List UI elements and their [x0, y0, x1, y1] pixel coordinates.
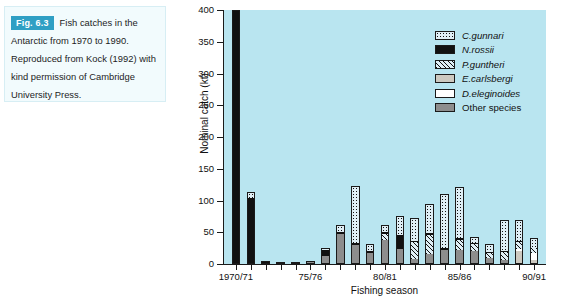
x-tick — [281, 265, 282, 270]
legend-swatch-icon — [435, 89, 455, 98]
bar-segment-N.rossii — [485, 252, 494, 253]
x-tick — [340, 265, 341, 270]
bar-segment-Other species — [500, 260, 509, 264]
bar-segment-N.rossii — [440, 248, 449, 250]
x-axis-title: Fishing season — [223, 285, 546, 296]
y-tick-label: 100 — [186, 196, 214, 205]
bar-segment-P.guntheri — [500, 252, 509, 260]
bar-segment-N.rossii — [261, 261, 270, 263]
bar-segment-E.carlsbergi — [515, 251, 524, 264]
bar-1982/83 — [410, 10, 419, 264]
legend-label: C.gunnari — [462, 30, 504, 41]
bar-segment-C.gunnari — [396, 216, 405, 235]
legend-label: Other species — [462, 102, 521, 113]
x-tick — [445, 265, 446, 270]
bar-segment-P.guntheri — [410, 242, 419, 259]
bar-segment-C.gunnari — [485, 244, 494, 252]
legend-item-d-eleginoides[interactable]: D.eleginoides — [435, 86, 561, 101]
y-tick — [217, 264, 223, 265]
bar-segment-Other species — [366, 253, 375, 264]
x-tick — [385, 265, 386, 270]
bar-segment-Other species — [261, 263, 270, 264]
chart-legend: C.gunnariN.rossiiP.guntheriE.carlsbergiD… — [435, 28, 561, 115]
bar-segment-Other species — [396, 249, 405, 264]
legend-label: E.carlsbergi — [462, 73, 513, 84]
bar-segment-N.rossii — [232, 10, 241, 264]
legend-item-c-gunnari[interactable]: C.gunnari — [435, 28, 561, 43]
x-tick — [415, 265, 416, 270]
bar-segment-Other species — [410, 259, 419, 264]
bar-segment-C.gunnari — [351, 186, 360, 243]
bar-1983/84 — [425, 10, 434, 264]
bar-segment-D.eleginoides — [515, 249, 524, 251]
legend-item-n-rossii[interactable]: N.rossii — [435, 43, 561, 58]
y-tick-label: 300 — [186, 69, 214, 78]
bar-1978/79 — [351, 10, 360, 264]
figure-caption-box: Fig. 6.3Fish catches in the Antarctic fr… — [4, 6, 166, 102]
bar-segment-C.gunnari — [470, 237, 479, 243]
bar-segment-C.gunnari — [515, 220, 524, 240]
y-tick — [217, 10, 223, 11]
y-tick — [217, 169, 223, 170]
x-tick — [430, 265, 431, 270]
bar-1975/76 — [306, 10, 315, 264]
bar-segment-N.rossii — [381, 232, 390, 234]
bar-segment-P.guntheri — [425, 235, 434, 254]
x-tick — [474, 265, 475, 270]
bar-segment-N.rossii — [410, 241, 419, 243]
legend-label: N.rossii — [462, 44, 494, 55]
legend-swatch-icon — [435, 74, 455, 83]
y-tick-label: 350 — [186, 37, 214, 46]
bar-segment-N.rossii — [247, 198, 256, 264]
bar-1972/73 — [261, 10, 270, 264]
bar-segment-D.eleginoides — [530, 253, 539, 259]
bar-segment-P.guntheri — [515, 242, 524, 250]
bar-segment-N.rossii — [515, 241, 524, 242]
y-tick — [217, 42, 223, 43]
bar-segment-Other species — [530, 263, 539, 264]
bar-segment-N.rossii — [500, 251, 509, 252]
y-tick-label: 400 — [186, 5, 214, 14]
y-tick — [217, 74, 223, 75]
bar-segment-C.gunnari — [425, 204, 434, 233]
x-tick-label: 85/86 — [433, 271, 487, 282]
legend-item-e-carlsbergi[interactable]: E.carlsbergi — [435, 72, 561, 87]
chart-container: Nominal catch (kt) Fishing season 050100… — [186, 0, 586, 306]
legend-swatch-icon — [435, 31, 455, 40]
x-tick — [460, 265, 461, 270]
bar-1976/77 — [321, 10, 330, 264]
x-tick-label: 75/76 — [283, 271, 337, 282]
bar-segment-N.rossii — [366, 251, 375, 254]
legend-swatch-icon — [435, 103, 455, 112]
x-tick — [400, 265, 401, 270]
x-tick — [266, 265, 267, 270]
y-tick — [217, 201, 223, 202]
bar-segment-N.rossii — [336, 232, 345, 234]
y-tick-label: 250 — [186, 100, 214, 109]
bar-segment-C.gunnari — [410, 218, 419, 240]
bar-segment-Other species — [276, 263, 285, 264]
x-tick-label: 1970/71 — [209, 271, 263, 282]
bar-segment-P.guntheri — [485, 253, 494, 258]
bar-1977/78 — [336, 10, 345, 264]
legend-swatch-icon — [435, 45, 455, 54]
legend-label: D.eleginoides — [462, 88, 520, 99]
bar-1980/81 — [381, 10, 390, 264]
x-tick — [519, 265, 520, 270]
bar-segment-E.carlsbergi — [530, 260, 539, 263]
bar-segment-P.guntheri — [381, 234, 390, 240]
legend-swatch-icon — [435, 60, 455, 69]
bar-segment-C.gunnari — [366, 244, 375, 250]
bar-1981/82 — [396, 10, 405, 264]
bar-segment-C.gunnari — [500, 220, 509, 250]
x-tick — [370, 265, 371, 270]
legend-item-p-guntheri[interactable]: P.guntheri — [435, 57, 561, 72]
legend-item-other-species[interactable]: Other species — [435, 101, 561, 116]
bar-segment-C.gunnari — [455, 187, 464, 238]
bar-segment-C.gunnari — [336, 225, 345, 231]
x-tick — [296, 265, 297, 270]
legend-label: P.guntheri — [462, 59, 505, 70]
y-tick-label: 150 — [186, 164, 214, 173]
y-tick-label: 200 — [186, 132, 214, 141]
bar-segment-P.guntheri — [470, 244, 479, 251]
